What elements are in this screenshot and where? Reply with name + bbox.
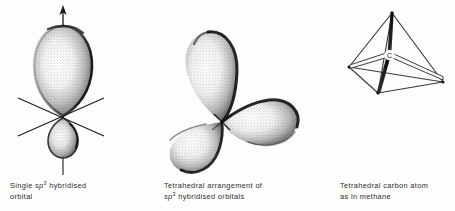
caption-line-2: as in methane: [340, 192, 428, 203]
figure-page: Single sp3 hybridised orbital: [0, 0, 455, 211]
major-lobe: [34, 26, 92, 116]
tetrahedron-bonds: [350, 14, 443, 93]
bond-to-right: [391, 53, 443, 80]
tetrahedron-diagram: C: [303, 0, 455, 175]
central-carbon-label: C: [384, 50, 394, 60]
lobe-right: [222, 100, 298, 146]
caption-line-2: sp3 hybridised orbitals: [164, 192, 262, 203]
panel-tetrahedral-arrangement: Tetrahedral arrangement of sp3 hybridise…: [152, 0, 304, 211]
caption-line-1: Tetrahedral carbon atom: [340, 181, 428, 192]
lobe-upper-left: [186, 32, 237, 122]
caption-line-2: orbital: [10, 192, 87, 203]
panel-single-sp3-orbital: Single sp3 hybridised orbital: [0, 0, 152, 211]
caption-line-1: Single sp3 hybridised: [10, 181, 87, 192]
orbital-diagram-tetrahedral: [152, 0, 304, 175]
caption-line-1: Tetrahedral arrangement of: [164, 181, 262, 192]
caption-tetrahedral-carbon-atom: Tetrahedral carbon atom as in methane: [340, 181, 428, 202]
lobe-lower-left: [170, 122, 223, 173]
tetrahedron-edges: [349, 13, 443, 93]
panel-tetrahedral-carbon-atom: C Tetrahedral carbon atom as in methane: [303, 0, 455, 211]
orbital-diagram-single: [0, 0, 152, 175]
atom-label-c: C: [387, 52, 392, 59]
tetrahedron-vertices: [348, 11, 445, 94]
minor-lobe: [48, 118, 78, 158]
caption-tetrahedral-arrangement: Tetrahedral arrangement of sp3 hybridise…: [164, 181, 262, 202]
caption-single-sp3-orbital: Single sp3 hybridised orbital: [10, 181, 87, 202]
